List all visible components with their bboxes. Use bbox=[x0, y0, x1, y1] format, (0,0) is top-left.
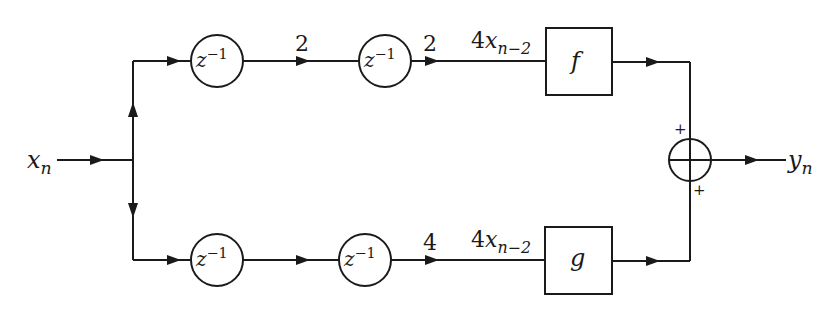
arrow-icon bbox=[167, 255, 181, 265]
arrow-up-icon bbox=[128, 102, 138, 117]
bottom-pre-block-label: 4xn−2 bbox=[471, 229, 531, 251]
delay-base: z bbox=[364, 48, 375, 72]
output-sub: n bbox=[802, 158, 813, 178]
output-label: yn bbox=[788, 148, 813, 172]
summer-top-sign: + bbox=[674, 122, 687, 137]
input-var: x bbox=[27, 146, 41, 174]
coef: 4 bbox=[471, 227, 485, 252]
var: x bbox=[485, 227, 497, 252]
arrow-icon bbox=[296, 56, 310, 66]
top-edge-label-1: 2 bbox=[295, 33, 309, 55]
block-f-label: f bbox=[571, 49, 580, 73]
input-label: xn bbox=[27, 148, 52, 172]
var: x bbox=[485, 28, 497, 53]
delay-base: z bbox=[196, 247, 207, 271]
delay-exp: −1 bbox=[355, 245, 376, 261]
delay-base: z bbox=[344, 247, 355, 271]
arrow-icon bbox=[296, 255, 310, 265]
sub: n−2 bbox=[497, 39, 531, 58]
top-edge-label-2: 2 bbox=[423, 33, 437, 55]
top-delay-1-label: z−1 bbox=[196, 50, 228, 70]
top-delay-2-label: z−1 bbox=[364, 50, 396, 70]
delay-exp: −1 bbox=[375, 46, 396, 62]
arrow-icon bbox=[646, 256, 660, 266]
delay-exp: −1 bbox=[207, 46, 228, 62]
output-var: y bbox=[788, 146, 802, 174]
block-diagram bbox=[0, 0, 839, 311]
delay-exp: −1 bbox=[207, 245, 228, 261]
input-sub: n bbox=[41, 158, 52, 178]
delay-base: z bbox=[196, 48, 207, 72]
arrow-down-icon bbox=[128, 203, 138, 218]
coef: 4 bbox=[471, 28, 485, 53]
arrow-icon bbox=[90, 155, 104, 165]
arrow-icon bbox=[745, 155, 759, 165]
top-pre-block-label: 4xn−2 bbox=[471, 30, 531, 52]
arrow-icon bbox=[646, 57, 660, 67]
bottom-delay-2-label: z−1 bbox=[344, 249, 376, 269]
arrow-icon bbox=[425, 56, 439, 66]
summer-bottom-sign: + bbox=[693, 183, 706, 198]
arrow-icon bbox=[167, 56, 181, 66]
arrow-icon bbox=[425, 255, 439, 265]
bottom-edge-label-1: 4 bbox=[423, 232, 437, 254]
block-g-label: g bbox=[570, 246, 585, 270]
sub: n−2 bbox=[497, 238, 531, 257]
bottom-delay-1-label: z−1 bbox=[196, 249, 228, 269]
